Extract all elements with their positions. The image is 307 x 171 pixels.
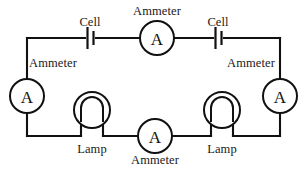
lamp-right-symbol <box>204 92 240 128</box>
cell-left-symbol <box>88 27 94 49</box>
circuit-schematic: A A A A <box>0 0 307 171</box>
ammeter-bottom-symbol: A <box>138 119 172 153</box>
label-ammeter-left: Ammeter <box>29 57 77 70</box>
ammeter-top-letter: A <box>151 30 164 49</box>
circuit-diagram-canvas: A A A A Cell Ammeter Cell Amm <box>0 0 307 171</box>
label-cell-right: Cell <box>207 16 228 29</box>
label-cell-left: Cell <box>79 16 100 29</box>
label-ammeter-bottom: Ammeter <box>131 154 179 167</box>
label-lamp-left: Lamp <box>77 143 107 156</box>
ammeter-right-letter: A <box>274 88 287 107</box>
cell-right-symbol <box>216 27 222 49</box>
label-lamp-right: Lamp <box>207 143 237 156</box>
ammeter-left-letter: A <box>21 88 34 107</box>
label-ammeter-top: Ammeter <box>133 5 181 18</box>
ammeter-top-symbol: A <box>140 21 174 55</box>
ammeter-left-symbol: A <box>10 79 44 113</box>
lamp-left-symbol <box>74 92 110 128</box>
ammeter-right-symbol: A <box>263 79 297 113</box>
ammeter-bottom-letter: A <box>149 128 162 147</box>
label-ammeter-right: Ammeter <box>227 57 275 70</box>
